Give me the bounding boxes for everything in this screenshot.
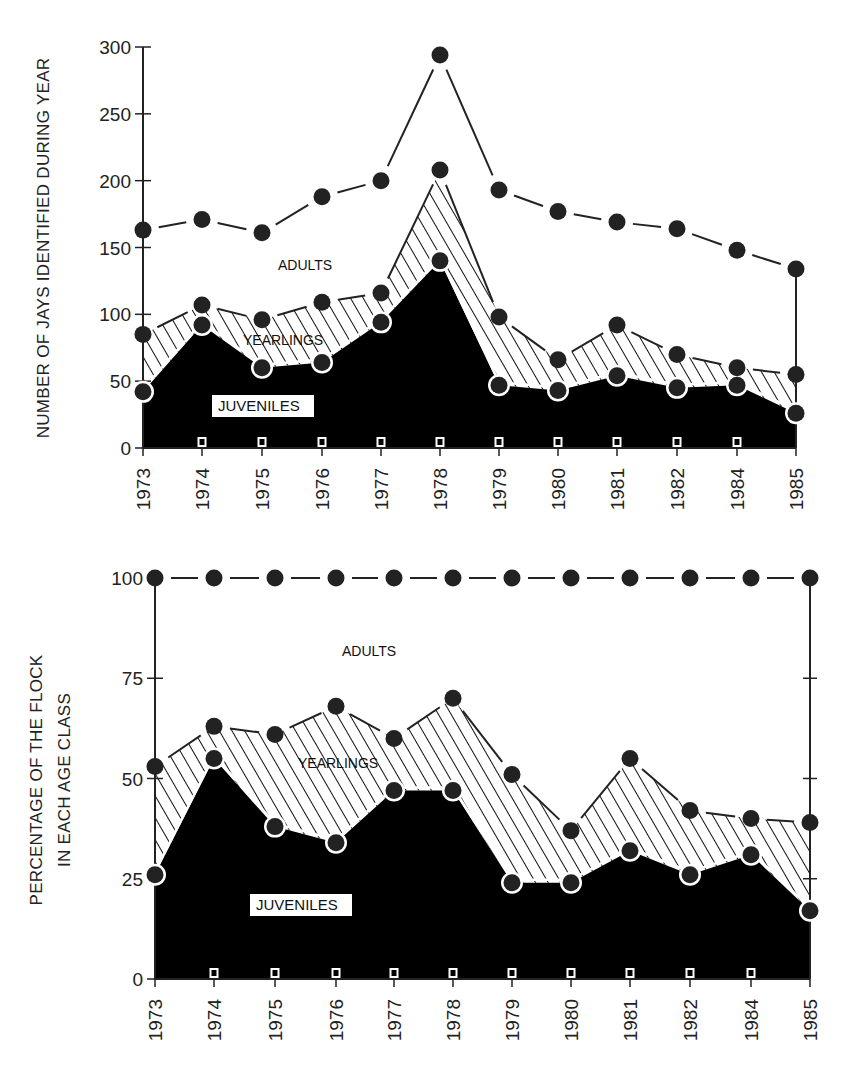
yearling-point [682, 802, 699, 819]
adult-point [609, 214, 626, 231]
year-marker [496, 438, 503, 446]
year-marker [259, 438, 266, 446]
juvenile-point [254, 359, 271, 376]
juvenile-point [550, 382, 567, 399]
juvenile-point [622, 842, 639, 859]
yearling-point [491, 309, 508, 326]
y-tick-label: 150 [99, 238, 131, 259]
juvenile-point [802, 902, 819, 919]
y-tick-label: 75 [122, 668, 143, 689]
x-tick-label: 1973 [133, 468, 154, 510]
adult-point [445, 570, 462, 587]
juvenile-point [743, 846, 760, 863]
x-tick-label: 1975 [252, 468, 273, 510]
y-tick-label: 50 [110, 371, 131, 392]
yearling-point [432, 161, 449, 178]
juvenile-point [267, 818, 284, 835]
juvenile-point [147, 866, 164, 883]
x-tick-label: 1973 [145, 999, 166, 1041]
juvenile-point [682, 866, 699, 883]
year-marker [378, 438, 385, 446]
x-tick-label: 1977 [384, 999, 405, 1041]
y-tick-label: 0 [132, 969, 143, 990]
yearling-point [194, 296, 211, 313]
yearlings-label: YEARLINGS [243, 332, 323, 348]
juveniles-label: JUVENILES [218, 397, 300, 414]
juvenile-point [609, 367, 626, 384]
yearling-point [445, 690, 462, 707]
juvenile-point [563, 874, 580, 891]
top-chart-count: 0501001502002503001973197419751976197719… [99, 37, 807, 510]
juveniles-label: JUVENILES [256, 896, 338, 913]
year-marker [674, 438, 681, 446]
adults-line [159, 70, 781, 265]
adult-point [206, 570, 223, 587]
adult-point [147, 570, 164, 587]
yearling-point [550, 351, 567, 368]
juvenile-point [194, 317, 211, 334]
year-marker [687, 969, 694, 977]
adult-point [194, 211, 211, 228]
adult-point [254, 224, 271, 241]
adult-point [135, 222, 152, 239]
juvenile-point [373, 314, 390, 331]
x-tick-label: 1985 [786, 468, 807, 510]
yearling-point [147, 758, 164, 775]
year-marker [272, 969, 279, 977]
y-tick-label: 100 [111, 568, 143, 589]
adult-point [491, 182, 508, 199]
juvenile-point [504, 874, 521, 891]
x-tick-label: 1976 [312, 468, 333, 510]
adult-point [314, 188, 331, 205]
yearlings-label: YEARLINGS [298, 755, 378, 771]
year-marker [509, 969, 516, 977]
juvenile-point [314, 354, 331, 371]
x-tick-label: 1982 [667, 468, 688, 510]
adult-point [802, 570, 819, 587]
yearling-point [267, 726, 284, 743]
juvenile-point [386, 782, 403, 799]
x-tick-label: 1981 [620, 999, 641, 1041]
yearling-point [206, 718, 223, 735]
adult-point [729, 242, 746, 259]
juvenile-point [328, 834, 345, 851]
year-marker [319, 438, 326, 446]
adult-point [682, 570, 699, 587]
adults-label: ADULTS [342, 643, 396, 659]
x-tick-label: 1979 [489, 468, 510, 510]
yearling-point [135, 326, 152, 343]
y-tick-label: 0 [120, 438, 131, 459]
x-tick-label: 1984 [727, 468, 748, 511]
x-tick-label: 1974 [192, 468, 213, 511]
y-tick-label: 250 [99, 104, 131, 125]
year-marker [734, 438, 741, 446]
x-tick-label: 1976 [326, 999, 347, 1041]
yearling-point [254, 311, 271, 328]
x-tick-label: 1984 [741, 999, 762, 1042]
yearling-point [386, 730, 403, 747]
adult-point [563, 570, 580, 587]
yearling-point [328, 698, 345, 715]
x-tick-label: 1985 [800, 999, 821, 1041]
adult-point [328, 570, 345, 587]
x-tick-label: 1978 [430, 468, 451, 510]
y-tick-label: 100 [99, 304, 131, 325]
juvenile-point [432, 252, 449, 269]
x-tick-label: 1981 [607, 468, 628, 510]
yearling-point [609, 317, 626, 334]
yearling-point [314, 294, 331, 311]
x-tick-label: 1977 [371, 468, 392, 510]
adult-point [373, 172, 390, 189]
year-marker [333, 969, 340, 977]
x-tick-label: 1974 [204, 999, 225, 1042]
bottom-y-axis-title-line2: IN EACH AGE CLASS [55, 693, 74, 867]
year-marker [437, 438, 444, 446]
adult-point [432, 47, 449, 64]
juvenile-point [669, 379, 686, 396]
yearling-point [788, 366, 805, 383]
x-tick-label: 1982 [680, 999, 701, 1041]
juvenile-point [729, 377, 746, 394]
age-class-charts: 0501001502002503001973197419751976197719… [0, 0, 844, 1076]
year-marker [555, 438, 562, 446]
year-marker [211, 969, 218, 977]
